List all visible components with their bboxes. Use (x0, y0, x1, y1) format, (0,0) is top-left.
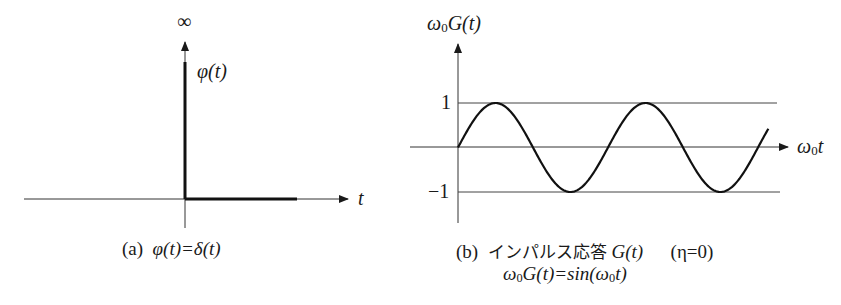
panel-b-caption-text: インパルス応答 (488, 242, 607, 262)
tick-label-plus-one: 1 (441, 91, 451, 114)
panel-a-y-label: φ(t) (197, 60, 227, 83)
omega-symbol: ω (797, 135, 811, 157)
panel-b-plot (410, 44, 788, 223)
panel-b-caption-line1: (b) インパルス応答 G(t) (η=0) (456, 238, 713, 263)
formula-middle: G(t)=sin(ω (523, 263, 609, 284)
formula-end: t) (615, 263, 627, 284)
infinity-label: ∞ (177, 10, 191, 33)
panel-a-plot (24, 42, 348, 228)
panel-b-caption-formula: ω0G(t)=sin(ω0t) (503, 263, 627, 286)
panel-b-y-label: ω0G(t) (427, 12, 481, 36)
y-label-function: G(t) (448, 12, 481, 34)
panel-a-x-label: t (358, 187, 364, 210)
tick-label-minus-one: −1 (428, 180, 449, 203)
omega-symbol: ω (503, 263, 516, 284)
omega-symbol: ω (427, 12, 441, 34)
panel-b-caption-prefix: (b) (456, 241, 478, 262)
x-label-variable: t (818, 135, 824, 157)
panel-b-x-label: ω0t (797, 135, 823, 159)
panel-b-caption-param: (η=0) (671, 241, 714, 262)
panel-b-caption-func: G(t) (611, 241, 643, 262)
panel-a-caption: (a) φ(t)=δ(t) (122, 238, 221, 260)
panel-a-caption-formula: φ(t)=δ(t) (153, 238, 221, 259)
panel-a-caption-prefix: (a) (122, 238, 143, 259)
